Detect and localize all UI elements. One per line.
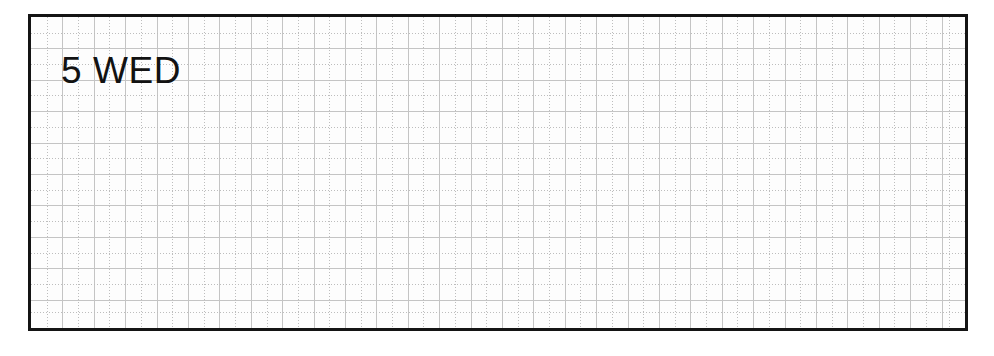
gridline-vertical — [251, 17, 252, 328]
gridline-horizontal — [31, 205, 965, 206]
gridline-horizontal-dotted — [31, 284, 965, 285]
gridline-horizontal-dotted — [31, 221, 965, 222]
gridline-vertical — [565, 17, 566, 328]
gridline-horizontal — [31, 268, 965, 269]
gridline-vertical — [439, 17, 440, 328]
gridline-vertical — [533, 17, 534, 328]
gridline-vertical-dotted — [361, 17, 362, 328]
gridline-horizontal — [31, 300, 965, 301]
weekday-label: WED — [93, 50, 181, 91]
gridline-vertical — [188, 17, 189, 328]
gridline-vertical — [910, 17, 911, 328]
day-number: 5 — [61, 50, 82, 91]
gridline-horizontal-dotted — [31, 253, 965, 254]
gridline-vertical-dotted — [832, 17, 833, 328]
gridline-vertical-dotted — [47, 17, 48, 328]
gridline-horizontal-dotted — [31, 127, 965, 128]
planner-page: 5WED — [0, 0, 994, 356]
gridline-vertical-dotted — [949, 17, 950, 328]
gridline-horizontal-dotted — [31, 33, 965, 34]
gridline-vertical — [408, 17, 409, 328]
gridline-horizontal — [31, 143, 965, 144]
gridline-vertical — [628, 17, 629, 328]
gridline-vertical — [942, 17, 943, 328]
gridline-horizontal-dotted — [31, 190, 965, 191]
gridline-vertical — [376, 17, 377, 328]
gridline-vertical-dotted — [706, 17, 707, 328]
gridline-vertical — [816, 17, 817, 328]
gridline-vertical — [282, 17, 283, 328]
gridline-vertical-dotted — [235, 17, 236, 328]
gridline-horizontal-dotted — [31, 312, 965, 313]
gridline-vertical — [847, 17, 848, 328]
gridline-vertical-dotted — [612, 17, 613, 328]
gridline-vertical-dotted — [894, 17, 895, 328]
gridline-vertical-dotted — [580, 17, 581, 328]
ruled-grid-frame: 5WED — [28, 14, 968, 331]
gridline-vertical-dotted — [204, 17, 205, 328]
gridline-vertical — [753, 17, 754, 328]
gridline-vertical-dotted — [675, 17, 676, 328]
gridline-horizontal-dotted — [31, 158, 965, 159]
gridline-vertical-dotted — [643, 17, 644, 328]
gridline-vertical-dotted — [392, 17, 393, 328]
gridline-vertical-dotted — [549, 17, 550, 328]
gridline-vertical-dotted — [423, 17, 424, 328]
gridline-vertical-dotted — [455, 17, 456, 328]
gridline-horizontal — [31, 237, 965, 238]
day-heading: 5WED — [61, 52, 181, 89]
gridline-vertical-dotted — [267, 17, 268, 328]
gridline-vertical — [879, 17, 880, 328]
gridline-vertical — [502, 17, 503, 328]
gridline-vertical — [345, 17, 346, 328]
gridline-horizontal-dotted — [31, 95, 965, 96]
gridline-horizontal — [31, 174, 965, 175]
gridline-vertical — [690, 17, 691, 328]
gridline-vertical-dotted — [329, 17, 330, 328]
gridline-vertical — [314, 17, 315, 328]
gridline-vertical — [785, 17, 786, 328]
gridline-vertical-dotted — [737, 17, 738, 328]
gridline-vertical-dotted — [518, 17, 519, 328]
gridline-vertical — [471, 17, 472, 328]
gridline-vertical — [219, 17, 220, 328]
gridline-vertical — [722, 17, 723, 328]
gridline-vertical-dotted — [926, 17, 927, 328]
gridline-vertical-dotted — [298, 17, 299, 328]
gridline-vertical — [659, 17, 660, 328]
gridline-vertical-dotted — [800, 17, 801, 328]
gridline-vertical — [596, 17, 597, 328]
gridline-vertical-dotted — [769, 17, 770, 328]
gridline-horizontal — [31, 111, 965, 112]
gridline-vertical-dotted — [486, 17, 487, 328]
gridline-vertical-dotted — [863, 17, 864, 328]
gridline-horizontal — [31, 48, 965, 49]
